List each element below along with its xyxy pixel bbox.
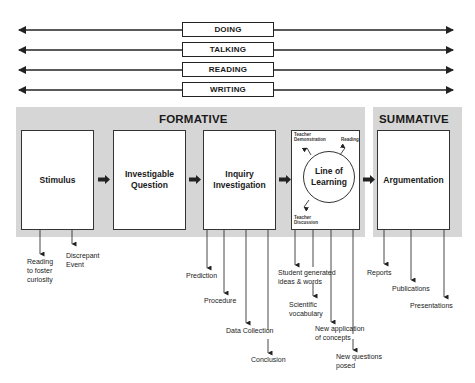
line-of-learning-circle: Line ofLearning: [303, 151, 355, 203]
output-reading-to-foster-curiosity: Readingto fostercuriosity: [27, 257, 53, 284]
iq-line2: Question: [131, 180, 168, 190]
output-procedure: Procedure: [204, 296, 236, 305]
output-new-questions: New questionsposed: [336, 352, 382, 370]
output-discrepant-event: DiscrepantEvent: [66, 251, 99, 269]
output-new-application: New applicationof concepts: [315, 324, 364, 342]
output-reports: Reports: [367, 268, 392, 277]
output-presentations: Presentations: [410, 301, 453, 310]
ii-line1: Inquiry: [225, 169, 253, 179]
output-scientific-vocabulary: Scientificvocabulary: [289, 300, 323, 318]
output-data-collection: Data Collection: [226, 326, 273, 335]
iq-line1: Investigable: [125, 169, 174, 179]
arrow-question-to-inquiry: [189, 175, 201, 184]
lol-teacher-demonstration: TeacherDemonstration: [294, 132, 326, 142]
lol-line1: Line of: [315, 166, 343, 176]
lol-teacher-discussion: TeacherDiscussion: [294, 215, 318, 225]
stage-inquiry-investigation: InquiryInvestigation: [203, 130, 276, 230]
ii-line2: Investigation: [213, 180, 265, 190]
mode-reading: READING: [182, 62, 274, 77]
stage-stimulus-label: Stimulus: [40, 175, 76, 186]
arrow-stimulus-to-question: [98, 175, 110, 184]
stage-argumentation: Argumentation: [377, 130, 450, 230]
lol-line2: Learning: [311, 177, 347, 187]
arrow-inquiry-to-lol: [279, 175, 291, 184]
output-student-generated: Student generatedideas & words: [278, 268, 336, 286]
stage-stimulus: Stimulus: [21, 130, 94, 230]
mode-arrows: [19, 30, 453, 90]
output-conclusion: Conclusion: [251, 355, 286, 364]
lol-reading: Reading: [341, 137, 359, 142]
output-prediction: Prediction: [186, 271, 217, 280]
mode-talking: TALKING: [182, 42, 274, 57]
output-publications: Publications: [392, 284, 430, 293]
mode-writing: WRITING: [182, 82, 274, 97]
arrow-lol-to-argumentation: [363, 175, 375, 184]
stage-argumentation-label: Argumentation: [383, 175, 443, 186]
mode-doing: DOING: [182, 22, 274, 37]
stage-investigable-question: InvestigableQuestion: [113, 130, 186, 230]
